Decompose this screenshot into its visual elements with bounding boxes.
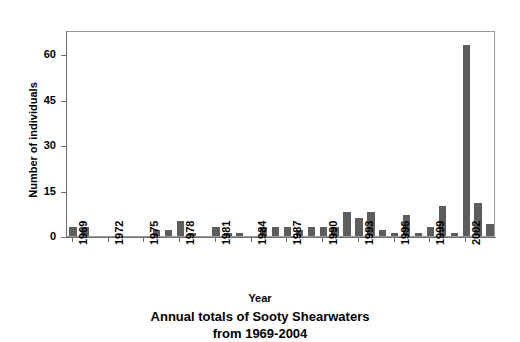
bar-1981: [212, 227, 219, 236]
bar-1993: [355, 218, 362, 236]
bar-1990: [320, 227, 327, 236]
x-tick-mark: [143, 237, 144, 242]
bar-2001: [451, 233, 458, 236]
x-tick-label-1975: 1975: [148, 221, 160, 245]
y-tick-mark: [61, 55, 66, 56]
x-tick-mark: [465, 237, 466, 242]
bar-1996: [391, 233, 398, 236]
x-tick-label-1987: 1987: [291, 221, 303, 245]
x-tick-mark: [251, 237, 252, 242]
x-tick-label-1990: 1990: [327, 221, 339, 245]
y-tick-mark: [61, 237, 66, 238]
x-tick-mark: [72, 237, 73, 242]
chart-caption: Annual totals of Sooty Shearwaters from …: [0, 308, 520, 342]
bar-1969: [69, 227, 76, 236]
y-tick-mark: [61, 192, 66, 193]
x-tick-mark: [429, 237, 430, 242]
bars-layer: [67, 32, 494, 236]
x-tick-mark: [179, 237, 180, 242]
x-tick-label-1969: 1969: [77, 221, 89, 245]
x-tick-label-1984: 1984: [256, 221, 268, 245]
bar-2002: [463, 45, 470, 236]
bar-1983: [236, 233, 243, 236]
bar-1986: [272, 227, 279, 236]
x-tick-mark: [394, 237, 395, 242]
bar-1989: [308, 227, 315, 236]
x-axis-title: Year: [0, 292, 520, 304]
y-tick-label-15: 15: [16, 186, 56, 197]
y-tick-label-60: 60: [16, 49, 56, 60]
y-axis-line: [66, 31, 67, 238]
x-tick-mark: [358, 237, 359, 242]
x-tick-label-1999: 1999: [434, 221, 446, 245]
x-tick-mark: [286, 237, 287, 242]
x-tick-mark: [108, 237, 109, 242]
y-tick-label-45: 45: [16, 95, 56, 106]
y-tick-mark: [61, 146, 66, 147]
x-tick-label-1978: 1978: [184, 221, 196, 245]
bar-1992: [343, 212, 350, 236]
y-tick-label-0: 0: [16, 231, 56, 242]
y-tick-label-30: 30: [16, 140, 56, 151]
x-axis-line: [66, 237, 496, 238]
x-tick-label-1993: 1993: [363, 221, 375, 245]
chart-figure: Number of individuals 015304560 19691972…: [0, 0, 520, 342]
x-tick-mark: [322, 237, 323, 242]
plot-area: [66, 31, 495, 237]
y-tick-mark: [61, 101, 66, 102]
bar-1998: [415, 233, 422, 236]
caption-line-1: Annual totals of Sooty Shearwaters: [0, 308, 520, 325]
bar-2004: [486, 224, 493, 236]
x-tick-mark: [215, 237, 216, 242]
x-tick-label-2002: 2002: [470, 221, 482, 245]
bar-1995: [379, 230, 386, 236]
x-tick-label-1981: 1981: [220, 221, 232, 245]
bar-1977: [165, 230, 172, 236]
bar-1978: [177, 221, 184, 236]
x-tick-label-1996: 1996: [399, 221, 411, 245]
caption-line-2: from 1969-2004: [0, 325, 520, 342]
x-tick-label-1972: 1972: [113, 221, 125, 245]
